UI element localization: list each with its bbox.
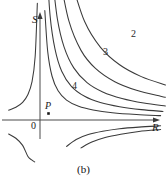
y-axis-arrowhead	[37, 12, 42, 19]
level-curve-lower-right-branch-inner	[67, 126, 161, 147]
y-axis-label: S	[32, 14, 38, 25]
plot-canvas	[0, 0, 166, 185]
origin-label: 0	[31, 121, 36, 131]
curve-label-2: 2	[131, 29, 136, 39]
level-curve-lower-right-branch-outer	[81, 129, 161, 147]
level-curve-lower-left-branch	[9, 134, 35, 162]
point-p-marker	[47, 112, 50, 115]
level-curve-3	[52, 0, 165, 106]
level-curve-5	[73, 0, 166, 85]
curve-label-4: 4	[72, 81, 77, 91]
point-p-label: P	[45, 101, 51, 111]
point-marker-group	[47, 112, 50, 115]
x-axis-label: R	[152, 122, 159, 133]
figure-caption: (b)	[77, 164, 90, 175]
curve-label-3: 3	[103, 47, 108, 57]
figure-container: S R 0 P 2 3 4 (b)	[0, 0, 166, 185]
level-curve-1	[45, 11, 161, 116]
axes-group	[2, 12, 160, 139]
